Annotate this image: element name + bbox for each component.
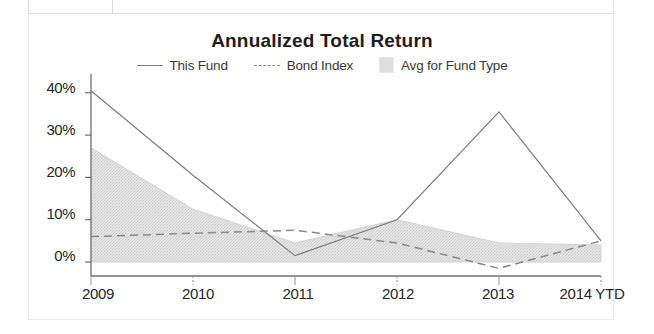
chart-plot-svg xyxy=(29,14,615,320)
scan-artifact-line-right xyxy=(613,0,614,14)
scan-artifact-line-mid xyxy=(112,0,113,14)
chart-container: Annualized Total Return This Fund Bond I… xyxy=(28,14,614,320)
y-axis-tick-label: 30% xyxy=(29,121,75,138)
x-axis-tick-label: 2014 YTD xyxy=(537,285,647,302)
x-axis-tick-label: 2010 xyxy=(143,285,253,302)
x-axis-tick-label: 2009 xyxy=(43,285,153,302)
y-axis-tick-label: 0% xyxy=(29,247,75,264)
series-avg-for-fund-type xyxy=(91,148,601,262)
x-axis-tick-label: 2012 xyxy=(343,285,453,302)
x-axis-tick-label: 2011 xyxy=(243,285,353,302)
y-axis-tick-label: 10% xyxy=(29,205,75,222)
y-axis-tick-label: 20% xyxy=(29,163,75,180)
y-axis-tick-label: 40% xyxy=(29,79,75,96)
plot-area: 40% 30% 20% 10% 0% 2009 2010 2011 2012 2… xyxy=(29,14,615,320)
